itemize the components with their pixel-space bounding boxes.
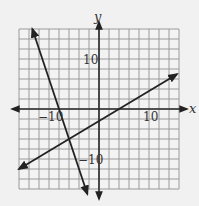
y-tick-label-neg10: −10 [78,153,103,167]
coordinate-plane: −101010−10xy [0,0,199,206]
x-tick-label-neg10: −10 [38,110,63,124]
y-tick-label-10: 10 [83,53,98,67]
x-tick-label-10: 10 [143,110,158,124]
x-axis-label: x [189,101,197,116]
y-axis-label: y [93,9,102,24]
